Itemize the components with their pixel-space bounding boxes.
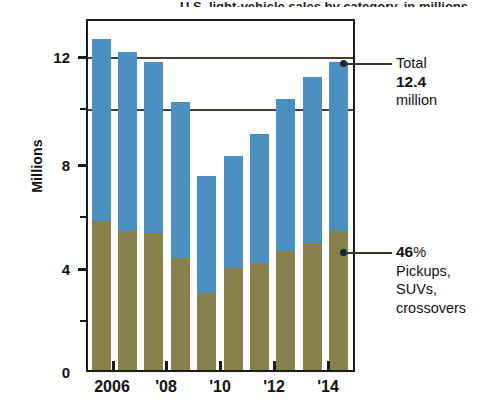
total-callout-text: Total 12.4 million <box>396 54 437 110</box>
bar-segment-cars-2012 <box>276 99 295 251</box>
share-callout-line2: Pickups, <box>396 262 466 281</box>
bar-2009[interactable] <box>197 176 216 370</box>
bar-segment-trucks-2010 <box>224 268 243 370</box>
share-callout-value: 46 <box>396 243 413 260</box>
total-callout-line1: Total <box>396 54 437 73</box>
bar-2008[interactable] <box>171 102 190 370</box>
share-callout-leader <box>346 252 392 254</box>
plot-inner <box>88 21 353 370</box>
bar-segment-cars-2010 <box>224 156 243 268</box>
x-tick-2006 <box>112 361 115 372</box>
bar-segment-cars-2013 <box>303 77 322 244</box>
chart-container: U.S. light-vehicle sales by category, in… <box>0 0 480 412</box>
y-axis-label-0: 0 <box>30 364 70 381</box>
share-callout-line4: crossovers <box>396 299 466 318</box>
bar-segment-trucks-2011 <box>250 263 269 370</box>
bar-segment-cars-2005 <box>92 39 111 220</box>
bar-group <box>88 21 353 370</box>
bar-segment-cars-2011 <box>250 134 269 263</box>
bar-2007[interactable] <box>144 62 163 370</box>
x-tick-2010 <box>219 361 222 372</box>
share-callout-text: 46% Pickups, SUVs, crossovers <box>396 243 466 317</box>
x-tick-2008 <box>165 361 168 372</box>
bar-2006[interactable] <box>118 52 137 370</box>
bar-2011[interactable] <box>250 134 269 370</box>
bar-segment-cars-2007 <box>144 62 163 234</box>
x-axis-label-2008: '08 <box>141 378 191 396</box>
bar-2010[interactable] <box>224 156 243 370</box>
bar-2012[interactable] <box>276 99 295 370</box>
bar-segment-trucks-2006 <box>118 231 137 370</box>
x-tick-2012 <box>273 361 276 372</box>
x-axis-label-2006: 2006 <box>82 378 142 396</box>
x-axis-label-2010: '10 <box>195 378 245 396</box>
x-axis-label-2012: '12 <box>249 378 299 396</box>
bar-segment-trucks-2012 <box>276 251 295 370</box>
share-callout-line3: SUVs, <box>396 280 466 299</box>
bar-segment-trucks-2013 <box>303 243 322 370</box>
bar-2013[interactable] <box>303 77 322 370</box>
bar-2014[interactable] <box>329 62 348 370</box>
share-callout-percent: % <box>413 244 426 260</box>
bar-2005[interactable] <box>92 39 111 370</box>
bar-segment-cars-2009 <box>197 176 216 293</box>
total-callout-leader <box>346 63 392 65</box>
y-axis-label-12: 12 <box>30 49 70 66</box>
bar-segment-trucks-2005 <box>92 221 111 370</box>
bar-segment-cars-2006 <box>118 52 137 231</box>
chart-title-clipped: U.S. light-vehicle sales by category, in… <box>0 0 480 7</box>
total-callout-unit: million <box>396 91 437 110</box>
bar-segment-trucks-2007 <box>144 233 163 370</box>
bar-segment-cars-2008 <box>171 102 190 259</box>
bar-segment-trucks-2009 <box>197 293 216 370</box>
share-callout-value-row: 46% <box>396 243 466 262</box>
y-axis-label-4: 4 <box>30 261 70 278</box>
x-axis-label-2014: '14 <box>303 378 353 396</box>
plot-area <box>86 19 355 372</box>
x-tick-2014 <box>327 361 330 372</box>
bar-segment-cars-2014 <box>329 62 348 231</box>
total-callout-value: 12.4 <box>396 73 437 92</box>
bar-segment-trucks-2008 <box>171 258 190 370</box>
y-axis-title: Millions <box>29 121 45 211</box>
